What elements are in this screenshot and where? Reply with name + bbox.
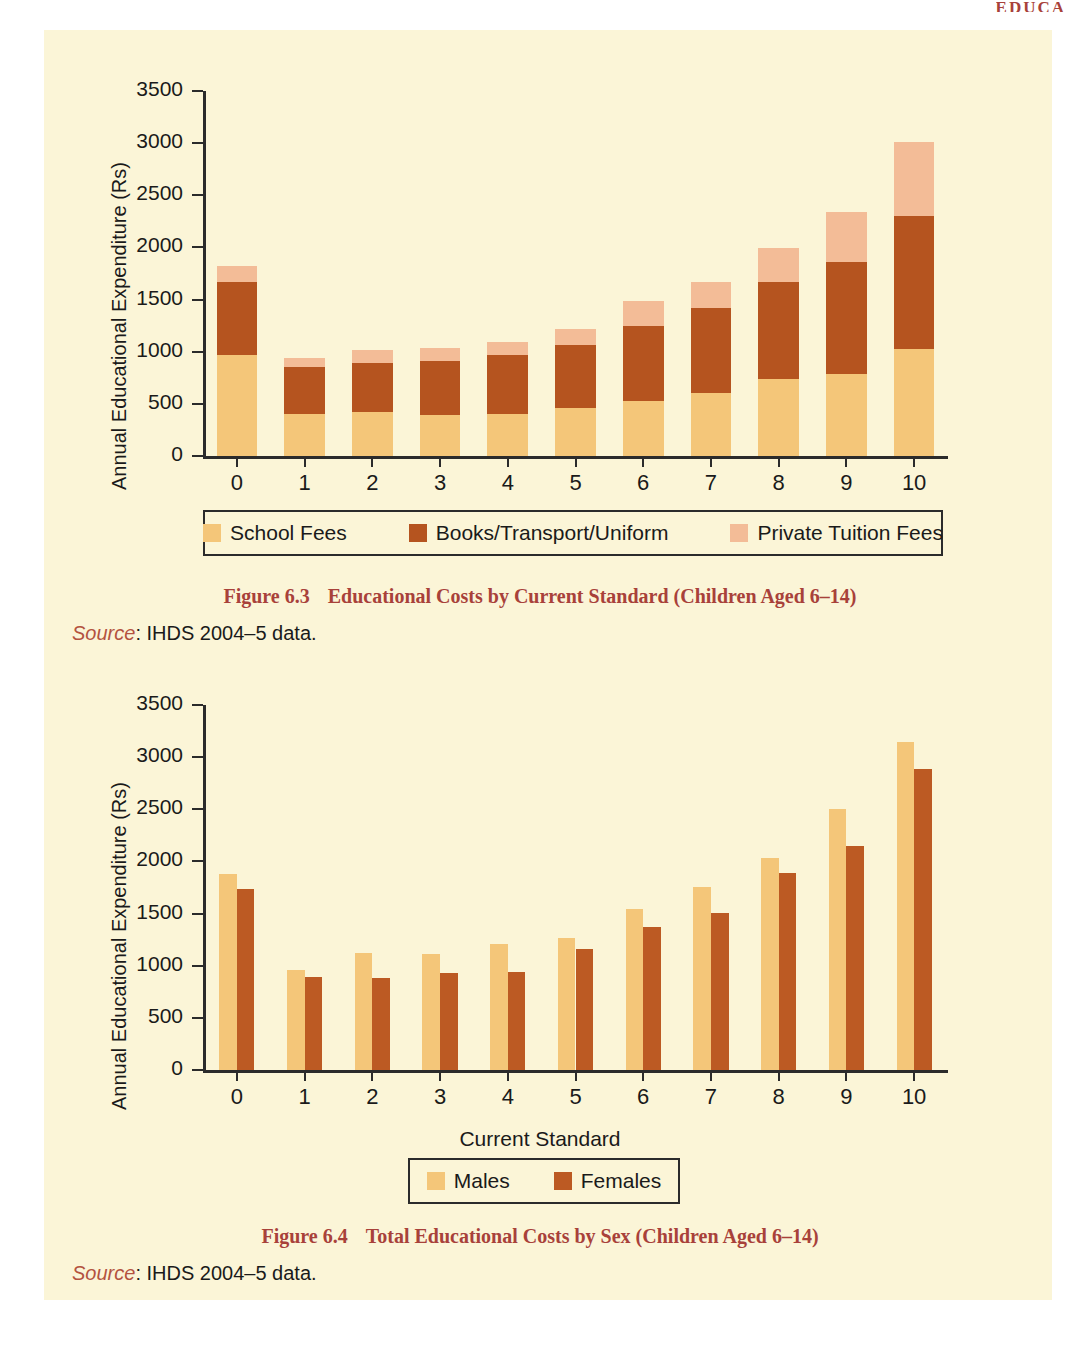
stacked-bar <box>691 282 732 456</box>
legend-label-females: Females <box>581 1169 662 1193</box>
figure-6-4-caption-number: Figure 6.4 <box>261 1225 347 1247</box>
bar-segment <box>284 358 325 367</box>
bar-segment <box>217 266 258 282</box>
bar-segment <box>284 414 325 456</box>
figure-6-4-y-tick <box>192 913 203 915</box>
figure-6-4-y-tick-label: 2000 <box>98 847 183 871</box>
figure-6-3-y-tick-label: 1500 <box>98 286 183 310</box>
figure-6-4: Annual Educational Expenditure (Rs) 0500… <box>0 680 1080 1300</box>
legend-swatch-males <box>427 1172 445 1190</box>
figure-6-3-x-tick-label: 5 <box>546 470 606 496</box>
figure-6-4-x-tick <box>710 1072 712 1081</box>
figure-6-3-x-tick <box>642 458 644 467</box>
figure-6-3-x-tick <box>913 458 915 467</box>
figure-6-3-y-tick-label: 500 <box>98 390 183 414</box>
bar-segment <box>555 345 596 408</box>
grouped-bar <box>237 889 255 1070</box>
grouped-bar <box>693 887 711 1070</box>
grouped-bar <box>508 972 526 1070</box>
figure-6-3-y-tick <box>192 90 203 92</box>
bar-segment <box>826 374 867 456</box>
bar-segment <box>487 342 528 356</box>
figure-6-4-x-tick <box>575 1072 577 1081</box>
legend-swatch-books-transport-uniform <box>409 524 427 542</box>
figure-6-4-x-tick-label: 9 <box>816 1084 876 1110</box>
figure-6-3-x-tick-label: 4 <box>478 470 538 496</box>
figure-6-4-x-tick-label: 2 <box>342 1084 402 1110</box>
figure-6-4-x-tick-label: 8 <box>749 1084 809 1110</box>
figure-6-3-x-tick <box>236 458 238 467</box>
stacked-bar <box>826 212 867 456</box>
figure-6-3-y-tick <box>192 403 203 405</box>
bar-segment <box>487 355 528 414</box>
stacked-bar <box>420 348 461 456</box>
grouped-bar <box>897 742 915 1070</box>
figure-6-4-y-tick-label: 3000 <box>98 743 183 767</box>
figure-6-3-source-label: Source <box>72 622 135 644</box>
grouped-bar <box>355 953 373 1070</box>
figure-6-3-caption: Figure 6.3Educational Costs by Current S… <box>0 585 1080 608</box>
figure-6-4-caption: Figure 6.4Total Educational Costs by Sex… <box>0 1225 1080 1248</box>
grouped-bar <box>626 909 644 1070</box>
figure-6-3-x-tick-label: 1 <box>275 470 335 496</box>
bar-segment <box>894 349 935 456</box>
bar-segment <box>555 329 596 345</box>
figure-6-4-x-tick-label: 3 <box>410 1084 470 1110</box>
figure-6-4-y-tick <box>192 1069 203 1071</box>
grouped-bar <box>711 913 729 1070</box>
bar-segment <box>894 216 935 348</box>
figure-6-3-x-tick <box>439 458 441 467</box>
bar-segment <box>420 361 461 415</box>
figure-6-4-y-tick-label: 1000 <box>98 952 183 976</box>
bar-segment <box>420 348 461 362</box>
legend-label-private-tuition-fees: Private Tuition Fees <box>757 521 943 545</box>
stacked-bar <box>352 350 393 456</box>
figure-6-4-x-tick <box>913 1072 915 1081</box>
figure-6-3: Annual Educational Expenditure (Rs) 0500… <box>0 60 1080 680</box>
figure-6-3-y-tick-label: 2500 <box>98 181 183 205</box>
bar-segment <box>487 414 528 456</box>
figure-6-4-source-text: : IHDS 2004–5 data. <box>135 1262 316 1284</box>
figure-6-4-x-tick <box>236 1072 238 1081</box>
figure-6-4-y-tick-label: 2500 <box>98 795 183 819</box>
figure-6-4-caption-text: Total Educational Costs by Sex (Children… <box>366 1225 819 1247</box>
legend-label-books-transport-uniform: Books/Transport/Uniform <box>436 521 669 545</box>
figure-6-3-y-tick <box>192 194 203 196</box>
figure-6-3-y-tick-label: 0 <box>98 442 183 466</box>
figure-6-3-x-tick <box>575 458 577 467</box>
grouped-bar <box>914 769 932 1070</box>
figure-6-3-x-tick-label: 3 <box>410 470 470 496</box>
figure-6-4-legend: MalesFemales <box>408 1158 680 1204</box>
figure-6-4-y-tick <box>192 1017 203 1019</box>
figure-6-3-x-tick <box>845 458 847 467</box>
figure-6-4-plot-area: 0500100015002000250030003500012345678910 <box>203 705 948 1070</box>
grouped-bar <box>490 944 508 1070</box>
bar-segment <box>826 262 867 374</box>
figure-6-3-caption-text: Educational Costs by Current Standard (C… <box>328 585 857 607</box>
figure-6-4-x-tick <box>642 1072 644 1081</box>
figure-6-3-y-tick-label: 1000 <box>98 338 183 362</box>
figure-6-3-legend: School FeesBooks/Transport/UniformPrivat… <box>203 510 943 556</box>
figure-6-3-caption-number: Figure 6.3 <box>223 585 309 607</box>
grouped-bar <box>576 949 594 1070</box>
stacked-bar <box>758 248 799 456</box>
figure-6-4-x-tick <box>778 1072 780 1081</box>
figure-6-4-x-tick-label: 10 <box>884 1084 944 1110</box>
stacked-bar <box>217 266 258 456</box>
grouped-bar <box>779 873 797 1070</box>
figure-6-4-y-tick-label: 1500 <box>98 900 183 924</box>
page-top-margin <box>0 0 1080 30</box>
bar-segment <box>352 412 393 456</box>
figure-6-3-y-tick <box>192 455 203 457</box>
figure-6-3-y-tick <box>192 142 203 144</box>
stacked-bar <box>284 358 325 456</box>
figure-6-4-y-tick <box>192 808 203 810</box>
grouped-bar <box>643 927 661 1070</box>
figure-6-4-x-tick-label: 6 <box>613 1084 673 1110</box>
figure-6-4-x-axis-label: Current Standard <box>0 1127 1080 1151</box>
figure-6-4-x-tick <box>507 1072 509 1081</box>
figure-6-3-x-tick-label: 9 <box>816 470 876 496</box>
figure-6-4-x-tick-label: 0 <box>207 1084 267 1110</box>
bar-segment <box>284 367 325 414</box>
figure-6-3-y-tick <box>192 246 203 248</box>
